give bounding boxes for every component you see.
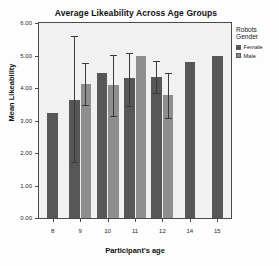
legend-label-female: Female — [244, 44, 263, 50]
y-tick-label: 0.00 — [6, 215, 32, 221]
error-bar-stem — [129, 53, 130, 108]
error-bar-stem — [156, 61, 157, 94]
error-bar-cap-bottom — [71, 162, 78, 163]
plot-area — [38, 22, 232, 219]
error-bar-cap-bottom — [110, 116, 117, 117]
error-bar-stem — [85, 63, 86, 106]
bar-15-female — [212, 56, 223, 219]
error-bar-9-male — [81, 63, 92, 106]
x-tick-mark — [162, 219, 163, 222]
bar-14-female — [185, 62, 196, 218]
error-bar-cap-top — [82, 63, 89, 64]
error-bar-12-male — [163, 73, 174, 119]
error-bar-cap-top — [153, 61, 160, 62]
legend-title-line2: Gender — [236, 33, 278, 40]
bar-10-female — [97, 73, 108, 218]
x-tick-label: 10 — [98, 228, 118, 234]
error-bar-cap-top — [126, 53, 133, 54]
x-tick-mark — [108, 219, 109, 222]
error-bar-stem — [168, 73, 169, 119]
y-tick-label: 6.00 — [6, 20, 32, 26]
error-bar-cap-bottom — [165, 118, 172, 119]
legend-title-line1: Robots — [236, 26, 278, 33]
x-tick-label: 14 — [180, 228, 200, 234]
error-bar-stem — [113, 55, 114, 118]
error-bar-10-male — [108, 55, 119, 118]
error-bar-cap-bottom — [126, 106, 133, 107]
error-bar-cap-top — [71, 36, 78, 37]
x-tick-mark — [217, 219, 218, 222]
x-tick-mark — [190, 219, 191, 222]
error-bar-11-female — [124, 53, 135, 108]
x-tick-mark — [80, 219, 81, 222]
legend-swatch-female — [236, 45, 241, 50]
error-bar-12-female — [151, 61, 162, 94]
error-bar-stem — [74, 36, 75, 163]
legend-item-female[interactable]: Female — [236, 44, 278, 51]
x-tick-mark — [53, 219, 54, 222]
legend: Robots Gender FemaleMale — [236, 26, 278, 61]
x-tick-mark — [135, 219, 136, 222]
x-axis-title: Participant's age — [38, 246, 232, 255]
error-bar-9-female — [69, 36, 80, 163]
plot-inner — [39, 23, 231, 218]
bar-12-female — [151, 77, 162, 218]
error-bar-cap-bottom — [82, 105, 89, 106]
x-tick-label: 9 — [70, 228, 90, 234]
error-bar-cap-top — [165, 73, 172, 74]
legend-label-male: Male — [244, 53, 257, 59]
x-tick-label: 8 — [43, 228, 63, 234]
x-tick-label: 11 — [125, 228, 145, 234]
chart-title: Average Likeability Across Age Groups — [36, 8, 236, 18]
bar-11-male — [136, 56, 147, 219]
legend-item-male[interactable]: Male — [236, 52, 278, 59]
error-bar-cap-top — [110, 55, 117, 56]
error-bar-cap-bottom — [153, 93, 160, 94]
x-tick-label: 12 — [152, 228, 172, 234]
legend-items: FemaleMale — [236, 44, 278, 60]
y-tick-label: 1.00 — [6, 183, 32, 189]
bar-8-female — [47, 113, 58, 218]
y-tick-label: 2.00 — [6, 150, 32, 156]
chart-container: Average Likeability Across Age Groups Me… — [0, 0, 279, 266]
legend-swatch-male — [236, 53, 241, 58]
x-tick-label: 15 — [207, 228, 227, 234]
y-axis-title: Mean Likeability — [7, 38, 16, 148]
